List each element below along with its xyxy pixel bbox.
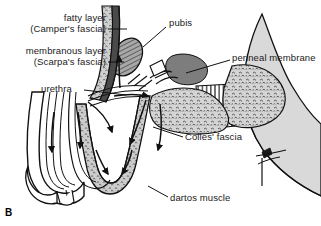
label-fatty-layer: fatty layer (Camper's fascia) xyxy=(10,12,106,34)
panel-letter-b: B xyxy=(5,207,12,218)
label-colles-fascia: Colles' fascia xyxy=(185,131,242,142)
label-pubis: pubis xyxy=(169,17,192,28)
label-membranous-layer-line1: membranous layer xyxy=(26,45,106,56)
label-fatty-layer-line2: (Camper's fascia) xyxy=(30,23,106,34)
label-membranous-layer: membranous layer (Scarpa's fascia) xyxy=(4,45,106,67)
anatomy-figure-panel-b: fatty layer (Camper's fascia) membranous… xyxy=(0,0,321,226)
label-urethra: urethra xyxy=(41,83,72,94)
label-perineal-membrane: perineal membrane xyxy=(232,52,316,63)
label-membranous-layer-line2: (Scarpa's fascia) xyxy=(34,56,106,67)
label-fatty-layer-line1: fatty layer xyxy=(64,12,106,23)
label-dartos-muscle: dartos muscle xyxy=(170,192,230,203)
